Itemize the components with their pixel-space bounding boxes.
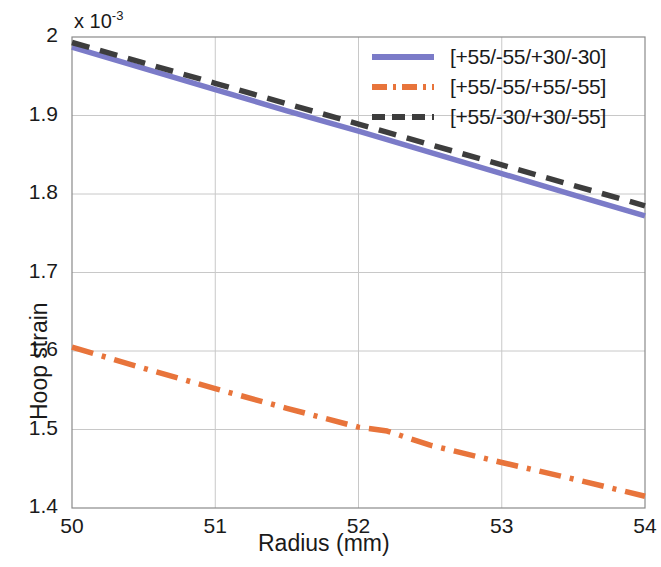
chart-legend: [+55/-55/+30/-30][+55/-55/+55/-55][+55/-… — [370, 42, 645, 132]
legend-label: [+55/-30/+30/-55] — [450, 105, 606, 129]
legend-item[interactable]: [+55/-30/+30/-55] — [370, 102, 645, 132]
y-axis-label: Hoop strain — [26, 302, 53, 420]
y-tick-label: 1.8 — [29, 180, 58, 204]
y-tick-label: 1.7 — [29, 259, 58, 283]
x-tick-label: 53 — [472, 514, 532, 538]
x-tick-label: 51 — [185, 514, 245, 538]
x-axis-label: Radius (mm) — [258, 530, 390, 557]
y-tick-label: 1.9 — [29, 102, 58, 126]
x-tick-label: 54 — [615, 514, 661, 538]
legend-line-sample — [370, 107, 436, 127]
legend-label: [+55/-55/+55/-55] — [450, 75, 606, 99]
y-axis-exponent: x 10-3 — [74, 8, 123, 33]
legend-line-sample — [370, 77, 436, 97]
y-axis-exponent-mantissa: x 10 — [74, 10, 112, 32]
legend-line-sample — [370, 47, 436, 67]
y-axis-exponent-power: -3 — [112, 8, 124, 23]
x-tick-label: 50 — [42, 514, 102, 538]
legend-label: [+55/-55/+30/-30] — [450, 45, 606, 69]
legend-item[interactable]: [+55/-55/+30/-30] — [370, 42, 645, 72]
legend-item[interactable]: [+55/-55/+55/-55] — [370, 72, 645, 102]
y-tick-label: 2 — [46, 23, 58, 47]
